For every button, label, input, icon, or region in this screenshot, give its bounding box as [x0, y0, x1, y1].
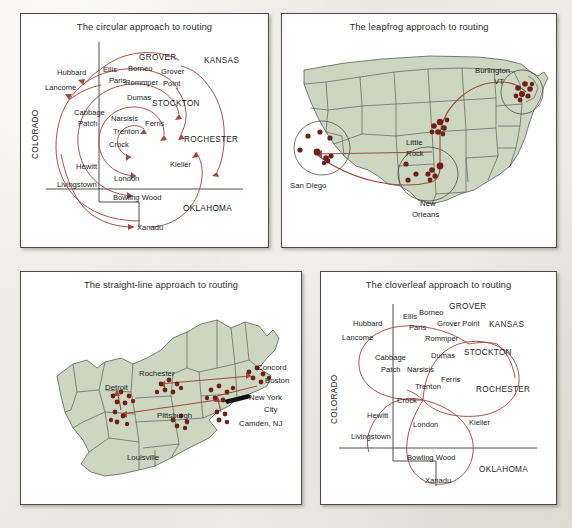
node-crock: Crock — [397, 396, 417, 405]
node-stockton: STOCKTON — [464, 348, 512, 357]
city-label-pittsburgh: Pittsburgh — [157, 411, 192, 420]
city-label-newyork: New York — [249, 393, 282, 402]
spiral-arc-outer-tail — [176, 88, 186, 134]
node-crock: Crock — [109, 140, 129, 149]
cloverleaf-diagram: COLORADO KANSAS OKLAHOMA Hubbard Lancome… — [321, 272, 556, 504]
city-label-camden: Camden, NJ — [239, 419, 282, 428]
node-paris: Paris — [409, 323, 427, 332]
node-point: Point — [163, 79, 181, 88]
node-grover-caps: GROVER — [449, 302, 486, 311]
panel-leapfrog-approach[interactable]: The leapfrog approach to routing — [281, 13, 557, 248]
node-trenton: Trenton — [113, 127, 139, 136]
node-rommper: Rommper — [425, 334, 459, 343]
node-narsisis: Narsisis — [407, 365, 434, 374]
node-patch: Patch — [78, 119, 97, 128]
node-grover: Grover — [161, 67, 185, 76]
node-lancome: Lancome — [45, 83, 76, 92]
node-xanadu: Xanadu — [425, 476, 451, 485]
node-hubbard: Hubbard — [353, 319, 382, 328]
city-label-orleans: Orleans — [412, 210, 439, 219]
node-london: London — [114, 174, 139, 183]
node-hewitt: Hewitt — [76, 162, 98, 171]
straight-line-map: Detroit Rochester Concord Boston Pittsbu… — [21, 272, 301, 504]
node-hewitt: Hewitt — [367, 411, 389, 420]
node-kieller: Kieller — [469, 418, 491, 427]
spiral-tail-rochester — [207, 84, 224, 172]
node-cabbage: Cabbage — [74, 108, 105, 117]
city-label-concord: Concord — [257, 363, 286, 372]
usa-outline — [304, 56, 548, 204]
city-label-louisville: Louisville — [127, 453, 159, 462]
city-label-new: New — [420, 199, 436, 208]
node-dumas: Dumas — [127, 93, 151, 102]
node-lancome: Lancome — [342, 333, 373, 342]
loop-southeast — [407, 400, 474, 484]
node-london: London — [413, 420, 438, 429]
node-rommper: Rommper — [125, 78, 159, 87]
city-label-san-diego: San Diego — [290, 181, 327, 190]
node-cabbage: Cabbage — [375, 353, 406, 362]
city-label-detroit: Detroit — [105, 383, 129, 392]
node-livingstown: Livingstown — [57, 180, 97, 189]
city-label-boston: Boston — [265, 376, 289, 385]
state-label-kansas: KANSAS — [204, 56, 239, 65]
state-label-kansas: KANSAS — [489, 320, 524, 329]
node-grover-point: Grover Point — [437, 319, 481, 328]
city-label-burlington-vt: VT — [494, 77, 504, 86]
node-ferris: Ferris — [441, 375, 461, 384]
city-label-rochester: Rochester — [139, 369, 175, 378]
city-label-rock: Rock — [406, 149, 424, 158]
node-borneo: Borneo — [419, 308, 444, 317]
state-label-colorado: COLORADO — [330, 375, 339, 424]
spiral-link-groverpoint — [181, 66, 207, 84]
node-stockton: STOCKTON — [152, 99, 200, 108]
state-label-colorado: COLORADO — [31, 110, 40, 159]
circular-diagram: COLORADO KANSAS OKLAHOMA Hubbard Lancome… — [21, 14, 268, 247]
state-label-oklahoma: OKLAHOMA — [479, 465, 528, 474]
node-rochester: ROCHESTER — [184, 135, 238, 144]
city-label-little: Little — [406, 138, 422, 147]
usa-map-shape — [304, 56, 548, 204]
node-paris: Paris — [109, 76, 127, 85]
node-ferris: Ferris — [145, 119, 165, 128]
node-bowling-wood: Bowling Wood — [407, 453, 455, 462]
node-narsisis: Narsisis — [111, 114, 138, 123]
node-bowling-wood: Bowling Wood — [113, 193, 161, 202]
dots-camden — [215, 410, 230, 425]
node-ellis: Ellis — [403, 312, 417, 321]
city-label-city: City — [264, 405, 278, 414]
node-patch: Patch — [381, 365, 400, 374]
node-hubbard: Hubbard — [57, 68, 86, 77]
state-label-oklahoma: OKLAHOMA — [183, 204, 232, 213]
node-grover-caps: GROVER — [139, 53, 176, 62]
city-label-burlington: Burlington — [475, 66, 510, 75]
panel-cloverleaf-approach[interactable]: The cloverleaf approach to routing COLOR… — [320, 271, 557, 505]
node-kieller: Kieller — [170, 160, 192, 169]
panel-straight-line-approach[interactable]: The straight-line approach to routing — [20, 271, 302, 505]
node-ellis: Ellis — [103, 65, 117, 74]
node-borneo: Borneo — [128, 64, 153, 73]
node-livingstown: Livingstown — [351, 432, 391, 441]
leapfrog-map: Burlington VT Little Rock San Diego New … — [282, 14, 556, 247]
node-rochester: ROCHESTER — [476, 385, 530, 394]
node-xanadu: Xanadu — [137, 223, 163, 232]
node-dumas: Dumas — [431, 351, 455, 360]
spiral-tail-xanadu — [61, 154, 134, 227]
panel-circular-approach[interactable]: The circular approach to routing — [20, 13, 269, 248]
node-trenton: Trenton — [415, 382, 441, 391]
